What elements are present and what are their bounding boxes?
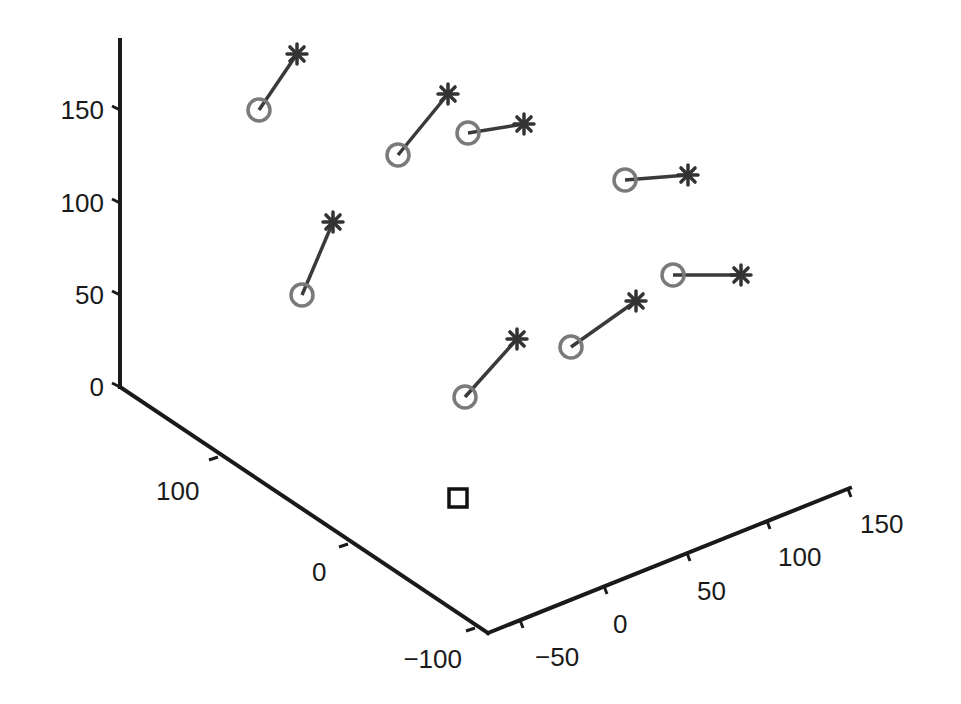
square-marker-shape bbox=[449, 489, 467, 507]
asterisk-marker bbox=[287, 44, 307, 64]
circle-markers bbox=[248, 99, 684, 408]
asterisk-marker bbox=[323, 212, 343, 232]
left-tick bbox=[209, 457, 218, 460]
ticks bbox=[112, 106, 851, 631]
asterisk-marker bbox=[626, 291, 646, 311]
asterisk-marker bbox=[514, 114, 534, 134]
tick-labels: 0501001501000−100−50050100150 bbox=[61, 95, 904, 674]
left-tick bbox=[466, 628, 475, 631]
left-tick bbox=[339, 544, 348, 547]
left-tick-label: −100 bbox=[403, 644, 462, 674]
left-horizontal-axis bbox=[120, 387, 488, 633]
left-tick-label: 100 bbox=[156, 476, 199, 506]
asterisk-marker bbox=[438, 84, 458, 104]
z-tick-label: 100 bbox=[61, 188, 104, 218]
asterisk-marker bbox=[507, 329, 527, 349]
3d-scatter-chart: 0501001501000−100−50050100150 bbox=[0, 0, 961, 704]
right-tick bbox=[848, 489, 851, 497]
right-tick-label: 100 bbox=[778, 542, 821, 572]
square-marker bbox=[449, 489, 467, 507]
right-tick-label: 0 bbox=[613, 609, 627, 639]
asterisk-markers bbox=[287, 44, 751, 349]
left-tick-label: 0 bbox=[312, 557, 326, 587]
right-tick-label: −50 bbox=[535, 642, 579, 672]
z-tick-label: 50 bbox=[75, 280, 104, 310]
right-tick-label: 150 bbox=[860, 509, 903, 539]
asterisk-marker bbox=[678, 165, 698, 185]
z-tick-label: 150 bbox=[61, 95, 104, 125]
z-tick-label: 0 bbox=[90, 372, 104, 402]
asterisk-marker bbox=[731, 265, 751, 285]
right-tick-label: 50 bbox=[697, 576, 726, 606]
